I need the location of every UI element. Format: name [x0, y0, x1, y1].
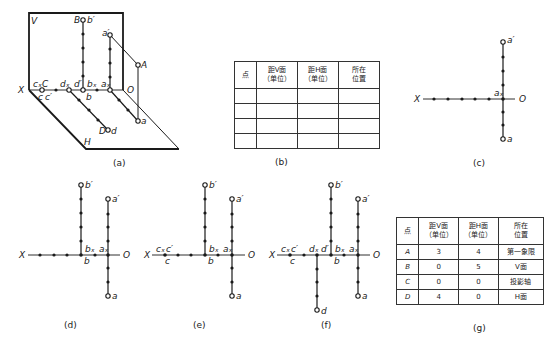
svg-text:b: b	[86, 92, 92, 102]
panel-d-projection: X O b′ a′ bₓ aₓ b a (d)	[18, 180, 130, 330]
svg-text:d′: d′	[74, 79, 82, 89]
label-v-plane: V	[31, 16, 38, 26]
cell-dist-h: 0	[459, 275, 499, 290]
svg-text:D: D	[99, 126, 106, 136]
svg-text:b′: b′	[335, 180, 343, 190]
svg-text:O: O	[519, 94, 526, 104]
header-dist-v: 距V面（单位）	[419, 218, 459, 245]
svg-text:X: X	[413, 94, 421, 104]
svg-text:c: c	[290, 256, 295, 266]
svg-text:cₓ: cₓ	[33, 79, 42, 89]
svg-text:a: a	[507, 134, 513, 144]
svg-text:c′: c′	[45, 92, 52, 102]
table-row	[235, 89, 380, 104]
cell-location: V面	[498, 260, 543, 275]
cell-location: 第一象限	[498, 245, 543, 260]
svg-text:B: B	[74, 15, 80, 25]
svg-text:aₓ: aₓ	[99, 244, 109, 254]
svg-text:X: X	[18, 250, 26, 260]
header-dist-h: 距H面（单位）	[459, 218, 499, 245]
header-point: 点	[235, 62, 257, 89]
svg-text:d′: d′	[321, 244, 329, 254]
svg-text:bₓ: bₓ	[209, 244, 219, 254]
svg-text:aₓ: aₓ	[223, 244, 233, 254]
table-row: C 0 0 投影轴	[397, 275, 544, 290]
svg-text:bₓ: bₓ	[87, 79, 97, 89]
svg-text:X: X	[143, 250, 151, 260]
header-location: 所在位置	[498, 218, 543, 245]
caption-g: (g)	[473, 323, 486, 333]
caption-a: (a)	[113, 158, 126, 168]
h-plane-right-edge	[123, 90, 179, 149]
svg-text:bₓ: bₓ	[85, 244, 95, 254]
cell-dist-h: 5	[459, 260, 499, 275]
svg-text:aₓ: aₓ	[101, 79, 111, 89]
header-point: 点	[397, 218, 419, 245]
svg-text:b: b	[334, 256, 340, 266]
svg-text:A: A	[140, 60, 147, 70]
svg-text:O: O	[373, 250, 380, 260]
cell-location: 投影轴	[498, 275, 543, 290]
label-origin: O	[127, 85, 134, 95]
svg-text:b′: b′	[209, 180, 217, 190]
table-row: A 3 4 第一象限	[397, 245, 544, 260]
svg-text:d: d	[111, 126, 117, 136]
svg-text:cₓ: cₓ	[156, 244, 165, 254]
cell-dist-h: 0	[459, 290, 499, 305]
table-b-header-row: 点 距V面（单位） 距H面（单位） 所在位置	[235, 62, 380, 89]
svg-text:a: a	[141, 116, 147, 126]
svg-text:bₓ: bₓ	[335, 244, 345, 254]
caption-e: (e)	[193, 320, 206, 330]
svg-text:O: O	[248, 250, 255, 260]
cell-point: D	[397, 290, 419, 305]
panel-c-projection: X O a′ aₓ a (c)	[413, 35, 526, 168]
svg-text:b′: b′	[85, 180, 93, 190]
svg-text:dₓ: dₓ	[60, 79, 70, 89]
caption-b: (b)	[275, 157, 288, 167]
cell-dist-v: 0	[419, 260, 459, 275]
svg-text:cₓ: cₓ	[281, 244, 290, 254]
svg-text:c′: c′	[291, 244, 298, 254]
cell-dist-v: 4	[419, 290, 459, 305]
svg-text:b: b	[84, 256, 90, 266]
svg-text:a: a	[236, 291, 242, 301]
cell-point: B	[397, 260, 419, 275]
svg-text:b′: b′	[87, 15, 95, 25]
header-dist-h: 距H面（单位）	[297, 62, 338, 89]
header-dist-v: 距V面（单位）	[257, 62, 298, 89]
svg-text:a: a	[362, 291, 368, 301]
label-h-plane: H	[84, 137, 91, 147]
svg-text:a′: a′	[507, 35, 515, 45]
cell-dist-v: 0	[419, 275, 459, 290]
caption-c: (c)	[473, 158, 485, 168]
svg-text:b: b	[208, 256, 214, 266]
svg-text:a′: a′	[362, 194, 370, 204]
table-b-blank: 点 距V面（单位） 距H面（单位） 所在位置	[234, 61, 380, 149]
svg-text:c′: c′	[166, 244, 173, 254]
svg-text:d: d	[321, 306, 327, 316]
cell-location: H面	[498, 290, 543, 305]
svg-text:aₓ: aₓ	[494, 88, 504, 98]
svg-text:a′: a′	[112, 194, 120, 204]
caption-d: (d)	[64, 320, 77, 330]
cell-dist-h: 4	[459, 245, 499, 260]
svg-text:c: c	[165, 256, 170, 266]
svg-text:a′: a′	[102, 28, 110, 38]
svg-text:a: a	[112, 291, 118, 301]
svg-text:X: X	[268, 250, 276, 260]
cell-point: C	[397, 275, 419, 290]
table-row: B 0 5 V面	[397, 260, 544, 275]
table-row: D 4 0 H面	[397, 290, 544, 305]
label-x-axis: X	[17, 85, 25, 95]
table-g-header-row: 点 距V面（单位） 距H面（单位） 所在位置	[397, 218, 544, 245]
svg-text:a′: a′	[236, 194, 244, 204]
header-location: 所在位置	[338, 62, 379, 89]
svg-text:C: C	[42, 79, 49, 89]
table-row	[235, 119, 380, 134]
panel-a-3d-view: V H X O B b′ a′ A cₓ C c c′ dₓ d′ bₓ b a…	[17, 13, 179, 168]
svg-text:dₓ: dₓ	[309, 244, 319, 254]
svg-text:aₓ: aₓ	[349, 244, 359, 254]
table-row	[235, 134, 380, 149]
table-row	[235, 104, 380, 119]
svg-text:O: O	[123, 250, 130, 260]
